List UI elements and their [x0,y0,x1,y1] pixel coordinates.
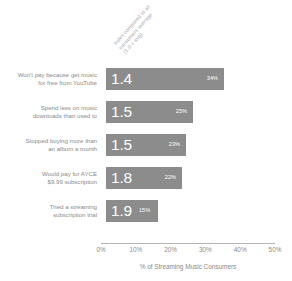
bar-index-value: 1.9 [111,203,132,219]
x-tick-20: 20% [164,246,177,253]
x-tick-50: 50% [269,246,282,253]
bar: 1.4 34% [106,68,224,90]
bar-index-value: 1.5 [111,104,132,120]
category-label-line-2: downloads than used to [33,112,97,120]
x-tick-40: 40% [234,246,247,253]
bar: 1.5 25% [106,101,193,123]
category-label-line-1: Spend less on music [41,104,97,112]
bar: 1.9 15% [106,200,158,222]
category-label-line-2: for free from YouTube [38,79,97,87]
category-label-line-1: Stopped buying more than [26,137,97,145]
bar-percent-label: 34% [207,76,218,82]
x-tick-10: 10% [129,246,142,253]
bar-row: Would pay for AYCE $9.99 subscription 1.… [0,165,292,191]
category-label-line-1: Won't pay because get music [18,71,97,79]
bar-row: Stopped buying more than an album a mont… [0,132,292,158]
bar-percent-label: 15% [139,208,150,214]
bar-chart: Index compared to all consumers average … [0,0,292,281]
x-axis-line [101,243,275,244]
bar-row: Spend less on music downloads than used … [0,99,292,125]
category-label-line-2: $9.99 subscription [48,178,97,186]
bar-percent-label: 25% [176,109,187,115]
category-label: Would pay for AYCE $9.99 subscription [0,165,101,191]
annotation-line-2: consumers average [117,8,156,51]
index-annotation: Index compared to all consumers average … [104,6,200,66]
bar: 1.8 22% [106,167,182,189]
bar-row: Tried a streaming subscription trial 1.9… [0,198,292,224]
category-label: Stopped buying more than an album a mont… [0,132,101,158]
category-label: Won't pay because get music for free fro… [0,66,101,92]
bar-index-value: 1.8 [111,170,132,186]
bar-index-value: 1.4 [111,71,132,87]
category-label-line-1: Would pay for AYCE [42,170,97,178]
x-tick-30: 30% [199,246,212,253]
category-label: Spend less on music downloads than used … [0,99,101,125]
bar: 1.5 23% [106,134,186,156]
bar-index-value: 1.5 [111,137,132,153]
x-axis-title: % of Streaming Music Consumers [101,263,275,270]
bar-row: Won't pay because get music for free fro… [0,66,292,92]
x-axis-ticks: 0% 10% 20% 30% 40% 50% [0,246,292,258]
category-label-line-2: subscription trial [53,211,97,219]
category-label: Tried a streaming subscription trial [0,198,101,224]
category-label-line-1: Tried a streaming [50,203,97,211]
bar-percent-label: 23% [169,142,180,148]
annotation-line-1: Index compared to all [112,4,151,47]
plot-area: Won't pay because get music for free fro… [0,66,292,238]
category-label-line-2: an album a month [48,145,97,153]
bar-percent-label: 22% [165,175,176,181]
x-tick-0: 0% [96,246,105,253]
annotation-line-3: (1.0 = avg) [122,12,161,55]
